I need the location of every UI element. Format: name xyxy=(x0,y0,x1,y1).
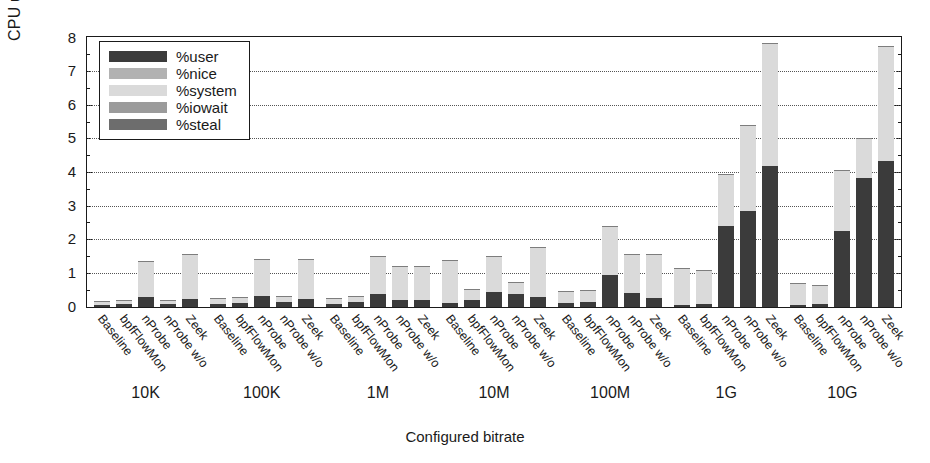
y-tick-label: 8 xyxy=(48,30,76,45)
bar-segment-user xyxy=(464,300,480,307)
bar-segment-system xyxy=(138,261,154,297)
bar-segment-user xyxy=(646,298,662,306)
legend-swatch-nice xyxy=(109,68,167,79)
cpu-usage-bar-chart: CPU usage [%] 012345678 BaselinebpfFlowM… xyxy=(0,0,930,463)
bar xyxy=(138,261,154,306)
bar xyxy=(116,300,132,307)
bar xyxy=(602,226,618,307)
x-group-label: 10K xyxy=(88,384,204,402)
bar-segment-system xyxy=(558,291,574,302)
legend-item: %steal xyxy=(109,117,237,132)
bar-segment-system xyxy=(812,285,828,305)
bar-segment-user xyxy=(878,161,894,307)
bar xyxy=(790,283,806,307)
legend-label-steal: %steal xyxy=(176,117,221,132)
bar-segment-user xyxy=(718,226,734,306)
bar-segment-system xyxy=(580,290,596,303)
y-tick-label: 1 xyxy=(48,265,76,280)
bar xyxy=(856,138,872,306)
bar-segment-user xyxy=(370,294,386,307)
bar xyxy=(558,291,574,306)
bar xyxy=(834,170,850,306)
bar xyxy=(878,46,894,307)
bar-segment-system xyxy=(740,125,756,211)
bar xyxy=(674,268,690,307)
bar-segment-system xyxy=(602,226,618,275)
x-group-label: 1G xyxy=(668,384,784,402)
x-axis-line xyxy=(86,307,902,308)
legend-item: %user xyxy=(109,49,237,64)
bar-segment-system xyxy=(464,289,480,300)
bar xyxy=(414,266,430,306)
bar-segment-system xyxy=(696,270,712,304)
legend-label-user: %user xyxy=(176,49,219,64)
x-group-label: 1M xyxy=(320,384,436,402)
bar-segment-system xyxy=(182,254,198,299)
bar xyxy=(580,290,596,307)
bar-segment-system xyxy=(370,256,386,294)
bar xyxy=(392,266,408,306)
bar xyxy=(298,259,314,307)
y-tick-label: 4 xyxy=(48,164,76,179)
y-tick-label: 3 xyxy=(48,198,76,213)
y-tick-label: 2 xyxy=(48,231,76,246)
legend-swatch-steal xyxy=(109,119,167,130)
bar xyxy=(696,270,712,306)
legend-item: %system xyxy=(109,83,237,98)
bar xyxy=(812,285,828,307)
bar xyxy=(646,254,662,306)
bar xyxy=(160,300,176,307)
bar-segment-user xyxy=(138,297,154,307)
bar-segment-system xyxy=(790,283,806,305)
bar xyxy=(530,247,546,307)
bar-segment-user xyxy=(486,292,502,306)
bar-segment-system xyxy=(414,266,430,300)
bar-segment-system xyxy=(486,256,502,292)
bar-segment-user xyxy=(508,294,524,307)
bar xyxy=(232,297,248,306)
bar-segment-system xyxy=(856,138,872,177)
x-group-label: 10G xyxy=(784,384,900,402)
y-tick-label: 5 xyxy=(48,130,76,145)
legend-item: %iowait xyxy=(109,100,237,115)
bar-segment-system xyxy=(718,174,734,227)
legend-swatch-user xyxy=(109,51,167,62)
bar-segment-system xyxy=(624,254,640,293)
bar-segment-user xyxy=(834,231,850,306)
bar xyxy=(326,298,342,306)
y-tick-label: 0 xyxy=(48,299,76,314)
bar xyxy=(740,125,756,307)
bar-segment-user xyxy=(602,275,618,307)
bar-segment-system xyxy=(508,282,524,293)
bar xyxy=(348,296,364,306)
bar-segment-system xyxy=(530,247,546,297)
legend-item: %nice xyxy=(109,66,237,81)
y-tick-label: 7 xyxy=(48,63,76,78)
bar xyxy=(464,289,480,306)
y-axis-title: CPU usage [%] xyxy=(6,0,24,80)
bar-segment-user xyxy=(624,293,640,306)
bar-segment-system xyxy=(254,259,270,296)
legend-swatch-iowait xyxy=(109,102,167,113)
bar-segment-system xyxy=(674,268,690,305)
bar xyxy=(508,282,524,306)
bar-segment-user xyxy=(182,299,198,306)
x-group-label: 10M xyxy=(436,384,552,402)
x-group-label: 100M xyxy=(552,384,668,402)
bar-segment-system xyxy=(834,170,850,231)
bar xyxy=(182,254,198,306)
bar xyxy=(624,254,640,306)
y-tick-label: 6 xyxy=(48,97,76,112)
bar-segment-user xyxy=(530,297,546,307)
bar-segment-user xyxy=(856,178,872,307)
bar xyxy=(718,174,734,307)
bar-segment-system xyxy=(646,254,662,298)
legend-label-system: %system xyxy=(176,83,237,98)
bar-segment-user xyxy=(762,166,778,307)
legend-swatch-system xyxy=(109,85,167,96)
bar xyxy=(254,259,270,307)
bar-segment-system xyxy=(392,266,408,300)
bar-segment-system xyxy=(298,259,314,300)
legend-label-iowait: %iowait xyxy=(176,100,228,115)
bar xyxy=(276,296,292,306)
